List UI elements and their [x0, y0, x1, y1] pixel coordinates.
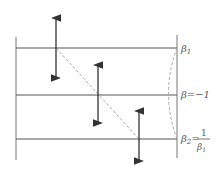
- label-beta1: β1: [180, 43, 191, 56]
- dashed-curve: [169, 48, 178, 139]
- lens-diagram: β1 β=−1 β2= 1 β1: [0, 0, 217, 169]
- label-beta-minus-one: β=−1: [180, 89, 210, 100]
- label-beta2-numerator: 1: [201, 128, 207, 138]
- label-beta2-denominator: β1: [196, 142, 206, 153]
